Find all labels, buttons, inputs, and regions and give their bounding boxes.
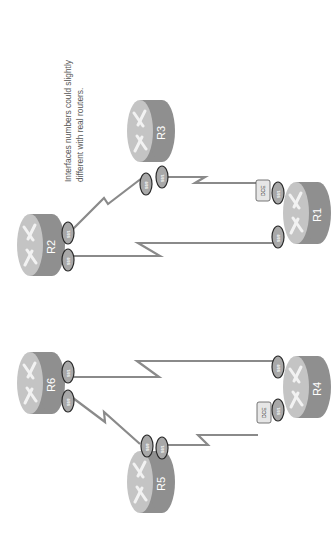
interface-r1-b-label: S0/0 <box>277 235 281 242</box>
interface-r5-a-label: S0/0 <box>146 444 150 451</box>
interface-r4-a-label: S0/0 <box>277 365 281 372</box>
link-r2-r1[interactable] <box>73 243 274 256</box>
router-r4-label: R4 <box>311 382 323 396</box>
link-r3-r2[interactable] <box>73 178 142 229</box>
interface-r3-a-label: S0/0 <box>145 182 149 189</box>
router-r5[interactable] <box>127 451 175 513</box>
router-r2[interactable] <box>17 214 65 276</box>
dce-label: DCE <box>260 185 266 196</box>
router-r6[interactable] <box>17 352 65 414</box>
note-line-1: Interfaces numbers could slightly <box>63 59 73 182</box>
router-r5-label: R5 <box>155 477 167 491</box>
router-r3[interactable] <box>127 100 175 162</box>
router-icon <box>283 182 331 244</box>
link-r3-r1[interactable] <box>166 177 256 183</box>
router-r2-label: R2 <box>45 240 57 254</box>
router-r1[interactable] <box>283 182 331 244</box>
interfaces-note: Interfaces numbers could slightly differ… <box>63 59 85 182</box>
router-r4[interactable] <box>283 356 331 418</box>
interface-r1-a-label: S0/1 <box>277 191 281 198</box>
router-icon <box>17 352 65 414</box>
interface-r6-a-label: S0/1 <box>67 370 71 377</box>
router-r6-label: R6 <box>45 378 57 392</box>
interface-r2-a-label: S0/1 <box>67 231 71 238</box>
interface-r2-b-label: S0/0 <box>67 258 71 265</box>
dce-label: DCE <box>261 407 267 418</box>
dce-tag-r4: DCE <box>257 402 271 423</box>
interface-r4-b-label: S0/1 <box>277 408 281 415</box>
router-icon <box>127 451 175 513</box>
router-r1-label: R1 <box>311 208 323 222</box>
link-r6-r4[interactable] <box>73 361 274 377</box>
router-r3-label: R3 <box>155 126 167 140</box>
note-line-2: different with real routers. <box>75 88 85 182</box>
link-r5-r4[interactable] <box>166 435 258 445</box>
interface-r5-b-label: S0/1 <box>161 446 165 453</box>
interface-r3-b-label: S0/1 <box>161 175 165 182</box>
dce-tag-r1: DCE <box>256 180 270 201</box>
router-icon <box>127 100 175 162</box>
interface-r6-b-label: S0/0 <box>67 399 71 406</box>
link-r6-r5[interactable] <box>73 398 140 444</box>
router-icon <box>17 214 65 276</box>
router-icon <box>283 356 331 418</box>
network-topology-diagram: Interfaces numbers could slightly differ… <box>0 0 336 534</box>
